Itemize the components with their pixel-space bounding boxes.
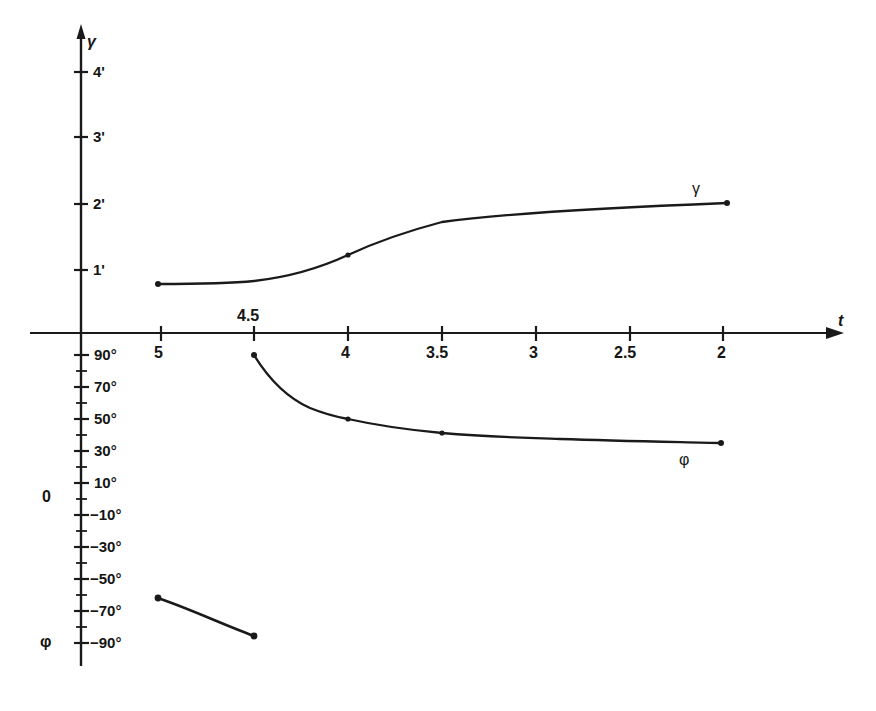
gamma-point-marker <box>155 281 161 287</box>
phi-point-marker <box>345 416 350 421</box>
t-axis-label: t <box>838 313 843 329</box>
gamma-tick-label-1: 1' <box>93 262 105 277</box>
gamma-curve-label: γ <box>692 181 700 197</box>
phi-tick-label-70: 70° <box>94 379 117 394</box>
vertical-axis <box>77 24 86 666</box>
phi-tick-label-neg90: −90° <box>90 635 121 650</box>
phi-point-marker <box>155 595 162 602</box>
phi-axis-label: φ <box>40 634 51 650</box>
t-tick-label-3_5: 3.5 <box>426 345 448 361</box>
gamma-axis-arrow <box>77 24 86 39</box>
t-tick-label-4_5: 4.5 <box>237 308 259 324</box>
gamma-tick-label-2: 2' <box>93 196 105 211</box>
gamma-curve <box>155 200 730 287</box>
phi-tick-label-90: 90° <box>94 347 117 362</box>
phi-point-marker <box>251 352 257 358</box>
gamma-point-marker <box>345 252 350 257</box>
phi-zero-label: 0 <box>42 489 51 505</box>
phi-tick-label-neg50: −50° <box>90 571 121 586</box>
phi-curve-positive <box>251 352 724 446</box>
phi-tick-label-30: 30° <box>94 443 117 458</box>
phi-tick-label-50: 50° <box>94 411 117 426</box>
gamma-point-marker <box>724 200 730 206</box>
t-tick-label-2: 2 <box>717 345 726 361</box>
phi-tick-label-neg70: −70° <box>90 603 121 618</box>
chart-figure: γ 4' 3' 2' 1' t 4.5 5 4 3.5 3 2.5 2 90° … <box>0 0 876 711</box>
phi-tick-label-neg30: −30° <box>90 539 121 554</box>
phi-curve-label: φ <box>679 452 689 468</box>
t-tick-label-3: 3 <box>529 345 538 361</box>
phi-curve-negative <box>155 595 258 640</box>
t-tick-label-2_5: 2.5 <box>614 345 636 361</box>
phi-point-marker <box>439 430 444 435</box>
t-tick-label-4: 4 <box>341 345 350 361</box>
gamma-tick-label-4: 4' <box>93 64 105 79</box>
gamma-axis-label: γ <box>87 34 96 50</box>
t-tick-label-5: 5 <box>154 345 163 361</box>
phi-point-marker <box>718 440 724 446</box>
phi-tick-label-10: 10° <box>94 475 117 490</box>
phi-tick-label-neg10: −10° <box>90 507 121 522</box>
phi-point-marker <box>251 633 258 640</box>
gamma-tick-label-3: 3' <box>93 129 105 144</box>
